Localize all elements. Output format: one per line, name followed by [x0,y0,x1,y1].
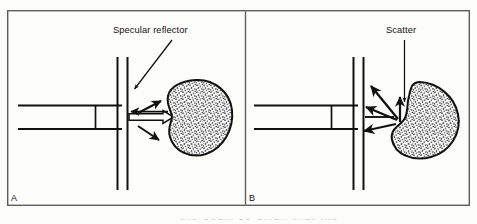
panel-letter-b: B [249,193,255,203]
figure-root: Specular reflector Scatter A B the beam … [0,0,477,224]
caption-bleed: the beam so small that the [0,219,477,224]
transducer-b [254,106,358,130]
panel-a-graphics [18,40,232,190]
scatter-arrow-fan-b [364,86,400,131]
specular-reflector-leader [135,40,173,89]
transducer-a [18,106,122,130]
scatterer-body [392,82,459,158]
specular-down-arrow [138,126,159,140]
interface-lines-a [118,57,128,190]
specular-reflector-body [168,80,233,156]
caption-bleed-text: the beam so small that the [180,219,339,222]
specular-reflector-label: Specular reflector [113,25,188,36]
scatter-label: Scatter [386,25,416,36]
scatter-arrow-left-lower [364,124,396,131]
panel-b-graphics [254,40,459,190]
panel-letter-a: A [11,193,17,203]
interface-lines-b [354,57,364,190]
